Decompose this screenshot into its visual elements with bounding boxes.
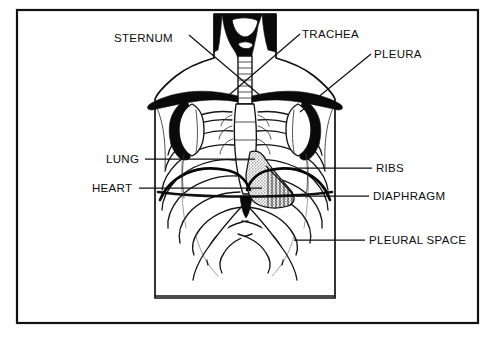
label-pleura: PLEURA — [374, 48, 422, 60]
label-diaphragm: DIAPHRAGM — [373, 190, 445, 202]
anatomy-figure: STERNUM TRACHEA PLEURA LUNG HEART RIBS D… — [0, 0, 497, 337]
chest-anatomy-diagram: STERNUM TRACHEA PLEURA LUNG HEART RIBS D… — [0, 0, 497, 337]
label-trachea: TRACHEA — [302, 28, 359, 40]
label-ribs: RIBS — [376, 162, 404, 174]
label-lung: LUNG — [106, 153, 139, 165]
label-sternum: STERNUM — [114, 32, 173, 44]
label-heart: HEART — [92, 182, 132, 194]
label-pleural-space: PLEURAL SPACE — [369, 234, 466, 246]
